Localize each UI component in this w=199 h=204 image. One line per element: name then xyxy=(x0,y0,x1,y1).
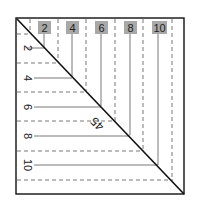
diagonal-line xyxy=(17,19,184,194)
side-label-2: 2 xyxy=(22,45,34,51)
ruler-diagram: 2 4 6 8 10 2 4 6 8 10 45 xyxy=(0,0,199,204)
solid-horizontal-lines xyxy=(27,48,158,165)
side-label-6: 6 xyxy=(22,104,34,110)
top-label-2: 2 xyxy=(41,22,47,34)
side-label-10: 10 xyxy=(22,159,34,171)
side-label-8: 8 xyxy=(22,133,34,139)
side-labels: 2 4 6 8 10 xyxy=(22,45,34,171)
top-label-8: 8 xyxy=(127,22,133,34)
solid-vertical-lines xyxy=(44,33,158,165)
side-label-4: 4 xyxy=(22,75,34,81)
top-label-6: 6 xyxy=(98,22,104,34)
top-label-10: 10 xyxy=(153,22,165,34)
diagonal-label-45: 45 xyxy=(87,114,107,134)
top-labels: 2 4 6 8 10 xyxy=(38,21,167,34)
top-label-4: 4 xyxy=(69,22,75,34)
